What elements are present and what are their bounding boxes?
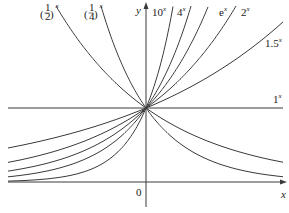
curve-10-x xyxy=(8,7,173,182)
origin-label: 0 xyxy=(136,186,142,198)
exponential-functions-chart: y x 0 (12)x(14)x10x4xex2x1.5x1x xyxy=(0,0,289,213)
svg-text:x: x xyxy=(99,2,104,10)
y-axis-label: y xyxy=(135,4,141,16)
label-1-2-x: (12)x xyxy=(40,1,60,22)
label-10-x: 10x xyxy=(152,5,167,18)
svg-text:): ) xyxy=(94,8,98,21)
label-4-x: 4x xyxy=(177,5,187,18)
svg-text:(: ( xyxy=(40,8,44,21)
svg-text:): ) xyxy=(50,8,54,21)
label-2-x: 2x xyxy=(241,5,251,18)
label-e-x: ex xyxy=(219,5,228,18)
label-1-5-x: 1.5x xyxy=(265,36,283,49)
label-1-4-x: (14)x xyxy=(84,1,104,22)
curve-1-4-x xyxy=(101,6,283,177)
svg-text:x: x xyxy=(55,2,60,10)
x-axis-label: x xyxy=(280,188,286,200)
svg-text:(: ( xyxy=(84,8,88,21)
x-axis-arrow-icon xyxy=(280,180,287,185)
y-axis-arrow-icon xyxy=(144,2,149,9)
label-1-x: 1x xyxy=(273,92,283,105)
curve-4-x xyxy=(8,6,191,177)
